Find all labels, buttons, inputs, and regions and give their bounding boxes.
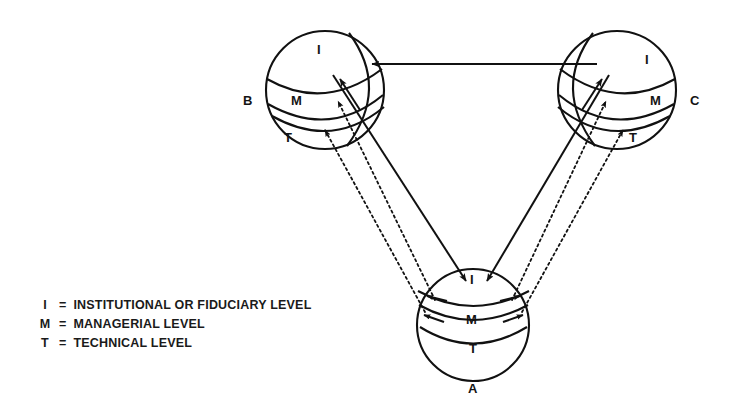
legend-item-t: T = TECHNICAL LEVEL [38,334,312,353]
sphere-b-level-m: M [291,93,302,108]
connection-line-b-a-down [333,75,466,281]
sphere-b-level-i: I [317,42,321,57]
connection-line-a-c-technical [522,130,623,312]
sphere-c-level-m: M [650,93,661,108]
sphere-label-b: B [243,93,252,108]
legend-key-t: T [38,334,52,353]
sphere-a-level-i: I [470,272,474,287]
sphere-b-level-t: T [284,130,292,145]
legend-key-i: I [38,296,52,315]
legend-item-i: I = INSTITUTIONAL OR FIDUCIARY LEVEL [38,296,312,315]
connection-a-to-b-technical [325,130,425,312]
connection-line-a-b-managerial [338,101,435,300]
connection-c-to-a-institutional [487,75,609,281]
legend-equals-m: = [56,315,70,334]
connection-b-to-a-institutional [333,75,466,281]
sphere-b-band-i-m [267,69,382,93]
connection-a-to-b-managerial [338,101,435,300]
sphere-c-band-i-m [560,69,675,93]
legend-text-m: MANAGERIAL LEVEL [73,315,204,334]
legend-item-m: M = MANAGERIAL LEVEL [38,315,312,334]
legend-text-t: TECHNICAL LEVEL [73,334,192,353]
diagram-canvas: B C A I M T I M T I M T I = INSTITUTIONA… [0,0,742,415]
connection-a-to-c-managerial [512,101,606,300]
sphere-label-c: C [690,93,699,108]
legend: I = INSTITUTIONAL OR FIDUCIARY LEVEL M =… [38,296,312,353]
connection-line-a-c-managerial [512,101,606,300]
sphere-a-band-arrow-left-m [424,315,444,322]
connection-line-a-b-technical [325,130,425,312]
connection-a-to-c-technical [522,130,623,312]
legend-key-m: M [38,315,52,334]
sphere-label-a: A [468,381,477,396]
sphere-b-meridian [347,33,369,146]
sphere-c-level-t: T [629,130,637,145]
sphere-a-level-m: M [466,312,477,327]
legend-equals-t: = [56,334,70,353]
connection-line-c-a-down [487,75,609,281]
legend-text-i: INSTITUTIONAL OR FIDUCIARY LEVEL [73,296,311,315]
sphere-a-level-t: T [469,341,477,356]
sphere-c-level-i: I [645,52,649,67]
legend-equals-i: = [56,296,70,315]
sphere-a-band-arrow-right-m [503,315,523,322]
